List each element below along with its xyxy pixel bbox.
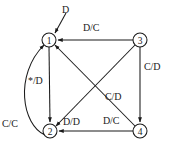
state-machine-diagram: 1 3 2 4 D D/C C/D C/D */D C/C D/D D/C: [0, 0, 174, 149]
edge-1-to-2: [49, 47, 50, 122]
edge-label-c-d-center: C/D: [105, 92, 121, 102]
edge-label-c-d-right: C/D: [144, 62, 160, 72]
start-label: D: [62, 5, 69, 15]
edge-2-to-1-curve: [24, 45, 45, 135]
node-2-label: 2: [48, 127, 53, 137]
node-1-label: 1: [47, 36, 52, 46]
edge-label-d-d: D/D: [63, 117, 80, 127]
start-arrow: [55, 13, 66, 33]
node-4-label: 4: [138, 127, 143, 137]
edge-label-d-c-bottom: D/C: [103, 116, 119, 126]
edge-label-c-c: C/C: [2, 119, 18, 129]
edge-label-d-c-top: D/C: [83, 23, 99, 33]
edge-label-star-d: */D: [28, 76, 43, 86]
node-3-label: 3: [138, 36, 143, 46]
